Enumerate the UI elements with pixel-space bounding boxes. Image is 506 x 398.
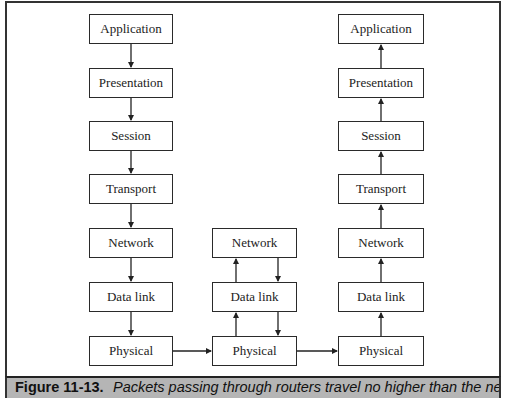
figure-caption-bar: Figure 11-13. Packets passing through ro… (5, 376, 501, 398)
arrows-layer (0, 0, 506, 398)
figure-caption: Packets passing through routers travel n… (113, 379, 501, 395)
figure-label: Figure 11-13. (15, 379, 104, 395)
